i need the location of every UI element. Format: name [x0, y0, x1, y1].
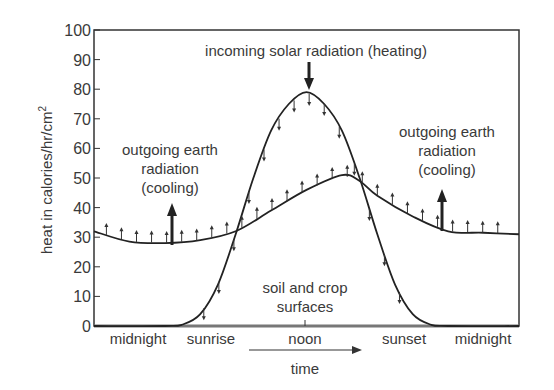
svg-text:surfaces: surfaces [277, 298, 334, 315]
svg-text:50: 50 [73, 170, 91, 187]
outgoing-arrow-right-icon [437, 189, 447, 231]
svg-text:40: 40 [73, 200, 91, 217]
svg-text:20: 20 [73, 259, 91, 276]
svg-text:soil and crop: soil and crop [262, 279, 347, 296]
chart: 0102030405060708090100 heat in calories/… [0, 0, 554, 390]
x-tick-midnight-start: midnight [110, 330, 168, 347]
svg-text:0: 0 [82, 318, 91, 335]
svg-text:90: 90 [73, 52, 91, 69]
svg-text:60: 60 [73, 140, 91, 157]
outgoing-arrow-left-icon [167, 203, 177, 245]
outgoing-left-label: outgoing earth radiation (cooling) [122, 141, 218, 196]
svg-text:70: 70 [73, 111, 91, 128]
x-tick-sunset: sunset [382, 330, 427, 347]
outgoing-right-label: outgoing earth radiation (cooling) [399, 123, 495, 178]
incoming-arrow-icon [304, 62, 314, 90]
surfaces-label: soil and crop surfaces [262, 279, 347, 315]
x-tick-noon: noon [288, 330, 321, 347]
svg-text:radiation: radiation [141, 160, 199, 177]
svg-text:outgoing earth: outgoing earth [399, 123, 495, 140]
svg-text:10: 10 [73, 288, 91, 305]
svg-text:30: 30 [73, 229, 91, 246]
svg-text:100: 100 [64, 22, 91, 39]
x-tick-midnight-end: midnight [455, 330, 513, 347]
svg-text:outgoing earth: outgoing earth [122, 141, 218, 158]
y-axis-label: heat in calories/hr/cm2 [37, 106, 55, 255]
x-axis-label: time [291, 360, 319, 377]
x-tick-sunrise: sunrise [187, 330, 235, 347]
svg-text:(cooling): (cooling) [418, 161, 476, 178]
svg-text:radiation: radiation [418, 142, 476, 159]
svg-text:80: 80 [73, 81, 91, 98]
time-arrow-icon [249, 346, 362, 354]
incoming-label: incoming solar radiation (heating) [205, 42, 427, 59]
svg-text:(cooling): (cooling) [141, 179, 199, 196]
